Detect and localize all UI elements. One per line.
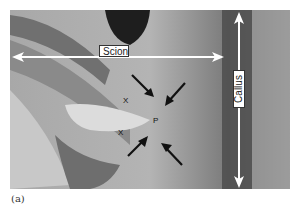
callus-label: Callus	[233, 70, 245, 108]
callus-light-band	[252, 10, 290, 189]
tissue-illustration	[10, 10, 290, 189]
panel-label: (a)	[11, 193, 25, 204]
xylem-marker-upper: X	[123, 96, 128, 105]
scion-label: Scion	[99, 45, 129, 57]
scion-label-text: Scion	[103, 46, 128, 57]
phloem-marker: P	[153, 116, 158, 125]
xylem-marker-lower: X	[118, 128, 123, 137]
callus-label-text: Callus	[234, 75, 244, 103]
micrograph-photo: Scion Callus X X P	[10, 10, 290, 189]
